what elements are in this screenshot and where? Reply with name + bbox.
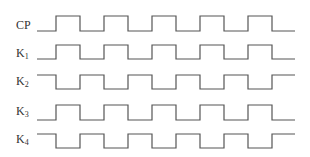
- signal-label-k4: K4: [16, 133, 29, 145]
- signal-label-k2: K2: [16, 75, 29, 87]
- waveform-canvas: [0, 0, 310, 157]
- signal-label-k3: K3: [16, 105, 29, 117]
- waveform-k1: [37, 45, 295, 59]
- signal-label-sub: 2: [25, 80, 29, 89]
- signal-label-cp: CP: [16, 19, 31, 31]
- signal-label-base: K: [16, 46, 25, 60]
- waveform-k2: [37, 75, 295, 89]
- timing-diagram: CP K1 K2 K3 K4: [0, 0, 310, 157]
- signal-label-base: CP: [16, 18, 31, 32]
- signal-label-sub: 1: [25, 52, 29, 61]
- signal-label-sub: 4: [25, 138, 29, 147]
- waveform-cp: [37, 16, 295, 31]
- waveform-k4: [37, 134, 295, 148]
- signal-label-base: K: [16, 74, 25, 88]
- signal-label-sub: 3: [25, 110, 29, 119]
- signal-label-base: K: [16, 132, 25, 146]
- signal-label-base: K: [16, 104, 25, 118]
- waveform-k3: [37, 105, 295, 120]
- signal-label-k1: K1: [16, 47, 29, 59]
